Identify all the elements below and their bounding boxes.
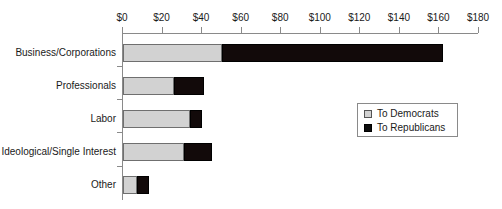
bar-segment-democrats (123, 143, 184, 161)
legend-item-democrats: To Democrats (364, 107, 457, 121)
x-tick-label-80: $80 (272, 12, 289, 23)
legend-label-republicans: To Republicans (377, 121, 445, 135)
legend-swatch-republicans-icon (364, 124, 372, 132)
x-axis-line (122, 33, 478, 34)
legend-item-republicans: To Republicans (364, 121, 457, 135)
bar-segment-republicans (222, 44, 444, 62)
x-tick-label-20: $20 (153, 12, 170, 23)
y-axis-tick (117, 132, 122, 133)
bar-segment-republicans (190, 110, 202, 128)
bar-segment-republicans (184, 143, 212, 161)
category-label-professionals: Professionals (56, 80, 116, 92)
x-tick-label-0: $0 (116, 12, 127, 23)
bar-segment-democrats (123, 44, 222, 62)
x-tick-label-100: $100 (309, 12, 331, 23)
x-tick-label-160: $160 (427, 12, 449, 23)
x-tick-label-180: $180 (467, 12, 489, 23)
chart-legend: To Democrats To Republicans (357, 103, 458, 137)
category-label-other: Other (91, 179, 116, 191)
legend-label-democrats: To Democrats (377, 107, 439, 121)
x-axis-tick (478, 27, 479, 33)
bar-segment-democrats (123, 176, 137, 194)
bar-segment-democrats (123, 77, 174, 95)
stacked-bar-chart: $0 $20 $40 $60 $80 $100 $120 $140 $160 $… (0, 0, 502, 209)
x-tick-label-60: $60 (232, 12, 249, 23)
y-axis-tick (117, 66, 122, 67)
category-label-labor: Labor (90, 113, 116, 125)
legend-swatch-democrats-icon (364, 110, 372, 118)
bar-segment-democrats (123, 110, 190, 128)
x-tick-label-140: $140 (388, 12, 410, 23)
bar-segment-republicans (137, 176, 149, 194)
bar-segment-republicans (174, 77, 204, 95)
y-axis-tick (117, 166, 122, 167)
category-label-business: Business/Corporations (15, 47, 116, 59)
x-tick-label-120: $120 (348, 12, 370, 23)
y-axis-tick (117, 99, 122, 100)
x-tick-label-40: $40 (193, 12, 210, 23)
category-label-ideological: Ideological/Single Interest (1, 146, 116, 158)
